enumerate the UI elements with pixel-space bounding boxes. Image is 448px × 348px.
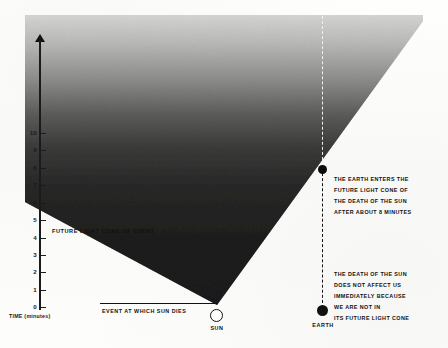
cone-entry-point-marker — [318, 165, 327, 174]
annotation-line: IMMEDIATELY BECAUSE — [334, 291, 409, 302]
time-axis-title: TIME (minutes) — [9, 313, 50, 319]
axis-tick — [41, 255, 46, 256]
annotation-earth-enters-cone: THE EARTH ENTERS THE FUTURE LIGHT CONE O… — [334, 174, 412, 218]
axis-tick — [41, 272, 46, 273]
annotation-line: THE DEATH OF THE SUN — [334, 269, 409, 280]
axis-tick-label: 3 — [24, 252, 37, 258]
annotation-line: FUTURE LIGHT CONE OF — [334, 185, 412, 196]
axis-tick — [41, 238, 46, 239]
axis-tick — [41, 203, 46, 204]
light-cone-figure: 10 9 8 7 6 5 4 3 2 1 0 TIME (minutes) FU… — [0, 0, 448, 348]
event-label: EVENT AT WHICH SUN DIES — [102, 308, 186, 314]
axis-tick-label: 4 — [24, 235, 37, 241]
axis-tick-label: 9 — [24, 147, 37, 153]
axis-tick — [41, 150, 46, 151]
axis-tick-label: 8 — [24, 165, 37, 171]
axis-tick-label: 7 — [24, 182, 37, 188]
axis-tick-label: 5 — [24, 217, 37, 223]
axis-tick-label: 0 — [24, 304, 37, 310]
annotation-line: DOES NOT AFFECT US — [334, 280, 409, 291]
annotation-line: AFTER ABOUT 8 MINUTES — [334, 207, 412, 218]
axis-tick — [41, 133, 46, 134]
event-baseline — [100, 303, 218, 304]
annotation-line: THE DEATH OF THE SUN — [334, 196, 412, 207]
axis-tick-label: 6 — [24, 200, 37, 206]
annotation-line: THE EARTH ENTERS THE — [334, 174, 412, 185]
annotation-line: ITS FUTURE LIGHT CONE — [334, 313, 409, 324]
axis-tick — [41, 290, 46, 291]
axis-tick-label: 1 — [24, 287, 37, 293]
annotation-death-not-immediate: THE DEATH OF THE SUN DOES NOT AFFECT US … — [334, 269, 409, 324]
axis-tick — [41, 220, 46, 221]
axis-tick — [41, 307, 46, 308]
axis-tick-label: 2 — [24, 269, 37, 275]
axis-tick — [41, 185, 46, 186]
sun-label: SUN — [205, 325, 229, 331]
earth-marker-icon — [317, 305, 328, 316]
earth-worldline-inside-cone — [322, 16, 323, 170]
annotation-line: WE ARE NOT IN — [334, 302, 409, 313]
future-light-cone-label: FUTURE LIGHT CONE OF EVENT — [52, 228, 155, 234]
sun-marker-icon — [210, 309, 223, 322]
time-axis-line — [39, 40, 41, 310]
axis-tick — [41, 168, 46, 169]
axis-tick-label: 10 — [24, 130, 37, 136]
earth-worldline-outside-cone — [322, 168, 323, 308]
